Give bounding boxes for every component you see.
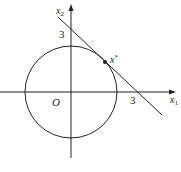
tangent-point (103, 60, 107, 64)
point-label: x* (109, 53, 118, 65)
x-axis-label: x1 (169, 94, 178, 107)
tangent-line (58, 17, 162, 115)
origin-label: O (52, 96, 60, 108)
y-axis-arrow-icon (69, 4, 74, 11)
y-axis-label: x2 (55, 5, 64, 18)
y-intercept-label: 3 (59, 28, 65, 40)
x-intercept-label: 3 (130, 94, 136, 106)
diagram-figure: x2 x1 O 3 3 x* (0, 0, 181, 172)
